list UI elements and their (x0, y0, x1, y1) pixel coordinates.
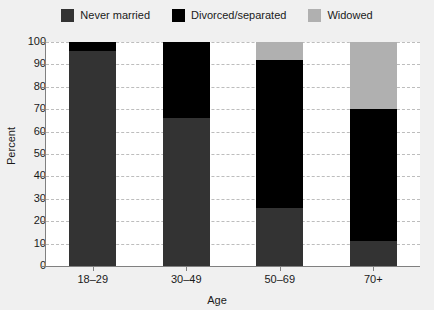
x-tick-mark (373, 266, 374, 271)
x-tick-label: 70+ (328, 274, 418, 285)
bar-segment[interactable] (163, 42, 210, 118)
bar-column[interactable] (163, 42, 210, 266)
bar-column[interactable] (350, 42, 397, 266)
plot-area (46, 42, 420, 266)
y-tick-label: 80 (6, 81, 46, 92)
bar-segment[interactable] (256, 42, 303, 60)
chart-legend: Never marriedDivorced/separatedWidowed (0, 4, 434, 26)
bar-segment[interactable] (256, 60, 303, 208)
legend-swatch-icon (172, 9, 185, 22)
y-tick-label: 0 (6, 260, 46, 271)
x-tick-label: 50–69 (235, 274, 325, 285)
legend-label: Divorced/separated (191, 10, 286, 21)
x-tick-label: 18–29 (48, 274, 138, 285)
legend-item-divorced-separated[interactable]: Divorced/separated (172, 9, 286, 22)
x-axis-line (45, 266, 420, 267)
legend-item-widowed[interactable]: Widowed (308, 9, 372, 22)
bar-segment[interactable] (69, 42, 116, 51)
y-tick-label: 20 (6, 215, 46, 226)
y-axis-title: Percent (5, 111, 17, 181)
bar-segment[interactable] (163, 118, 210, 266)
y-tick-label: 100 (6, 36, 46, 47)
y-tick-label: 30 (6, 193, 46, 204)
bar-segment[interactable] (69, 51, 116, 266)
bar-segment[interactable] (350, 241, 397, 266)
x-axis-title: Age (0, 294, 434, 306)
x-tick-mark (186, 266, 187, 271)
y-tick-label: 10 (6, 238, 46, 249)
y-tick-label: 90 (6, 58, 46, 69)
bar-column[interactable] (256, 42, 303, 266)
bar-segment[interactable] (256, 208, 303, 266)
x-tick-mark (93, 266, 94, 271)
x-tick-mark (280, 266, 281, 271)
legend-label: Never married (80, 10, 150, 21)
x-tick-label: 30–49 (141, 274, 231, 285)
legend-label: Widowed (327, 10, 372, 21)
legend-swatch-icon (61, 9, 74, 22)
legend-swatch-icon (308, 9, 321, 22)
bar-segment[interactable] (350, 42, 397, 109)
bar-segment[interactable] (350, 109, 397, 241)
bar-column[interactable] (69, 42, 116, 266)
legend-item-never-married[interactable]: Never married (61, 9, 150, 22)
